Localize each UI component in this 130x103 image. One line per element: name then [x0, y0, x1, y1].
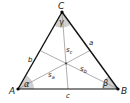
angle-label-beta: β	[102, 79, 108, 88]
angle-label-alpha: α	[24, 80, 30, 89]
side-label-c: c	[66, 92, 70, 100]
median-label-sc: sc	[66, 46, 73, 55]
vertex-label-A: A	[8, 86, 15, 96]
side-label-a: a	[89, 39, 93, 47]
vertex-B	[116, 87, 119, 90]
vertex-label-C: C	[58, 1, 65, 11]
median-label-sa: sa	[48, 71, 55, 80]
vertex-label-B: B	[121, 86, 127, 96]
side-label-b: b	[28, 56, 33, 64]
centroid	[65, 63, 67, 65]
median-label-sb: sb	[80, 65, 87, 74]
vertex-A	[16, 87, 19, 90]
triangle-diagram: A B C a b c α β γ sa sb sc	[0, 0, 130, 103]
